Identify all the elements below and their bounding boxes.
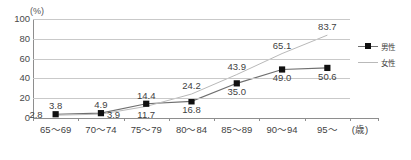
x-axis-tickmark-end-1 bbox=[378, 118, 379, 121]
x-axis-tick-label-2: 75～79 bbox=[131, 125, 162, 135]
legend-swatch-female-icon bbox=[358, 57, 378, 67]
data-label-male-6: 50.6 bbox=[318, 72, 337, 82]
data-label-female-1: 3.9 bbox=[107, 110, 120, 120]
x-axis-tick-label-1: 70～74 bbox=[85, 125, 116, 135]
x-axis-tickmark-6 bbox=[305, 118, 306, 121]
data-label-female-6: 83.7 bbox=[318, 22, 337, 32]
data-label-female-5: 65.1 bbox=[273, 41, 292, 51]
x-axis-tickmark-end-0 bbox=[350, 118, 351, 121]
data-label-male-3: 16.8 bbox=[182, 105, 201, 115]
x-axis-tickmark-5 bbox=[259, 118, 260, 121]
legend-item-female[interactable]: 女性 bbox=[358, 54, 411, 70]
chart-overlay: 3.84.914.416.835.049.050.62.83.911.724.2… bbox=[0, 0, 411, 160]
legend-label-female: 女性 bbox=[381, 57, 395, 68]
chart-container: (%) 020406080100 3.84.914.416.835.049.05… bbox=[0, 0, 411, 160]
x-axis-tick-label-3: 80～84 bbox=[176, 125, 207, 135]
data-label-female-4: 43.9 bbox=[228, 62, 247, 72]
x-axis-tickmark-3 bbox=[169, 118, 170, 121]
data-label-male-4: 35.0 bbox=[228, 87, 247, 97]
data-label-female-3: 24.2 bbox=[182, 81, 201, 91]
x-axis-tick-label-0: 65～69 bbox=[40, 125, 71, 135]
legend-item-male[interactable]: 男性 bbox=[358, 38, 411, 54]
legend-swatch-male-icon bbox=[358, 41, 378, 51]
x-axis-tick-label-6: 95～ bbox=[317, 125, 338, 135]
x-axis-tick-label-4: 85～89 bbox=[221, 125, 252, 135]
x-axis-unit-label: (歳) bbox=[352, 125, 368, 135]
chart-legend: 男性 女性 bbox=[358, 38, 411, 70]
x-axis-tick-label-5: 90～94 bbox=[266, 125, 297, 135]
x-axis-tickmark-4 bbox=[214, 118, 215, 121]
data-label-female-2: 11.7 bbox=[137, 110, 155, 120]
data-label-male-5: 49.0 bbox=[273, 73, 292, 83]
data-label-male-0: 3.8 bbox=[49, 101, 62, 111]
data-label-male-2: 14.4 bbox=[137, 91, 156, 101]
x-axis-tickmark-1 bbox=[78, 118, 79, 121]
x-axis-tickmark-0 bbox=[33, 118, 34, 121]
data-label-female-0: 2.8 bbox=[29, 110, 42, 120]
x-axis-tickmark-2 bbox=[124, 118, 125, 121]
legend-label-male: 男性 bbox=[381, 41, 395, 52]
data-label-male-1: 4.9 bbox=[94, 100, 107, 110]
